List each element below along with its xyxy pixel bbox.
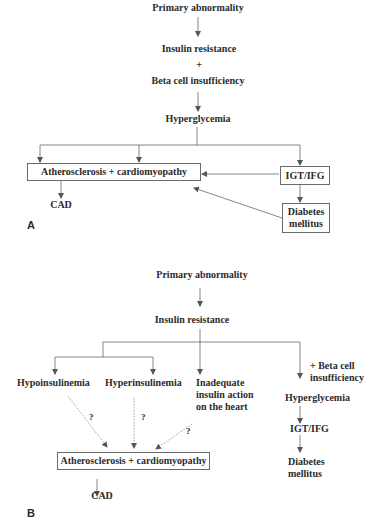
- b-hypoinsulinemia: Hypoinsulinemia: [17, 377, 90, 389]
- a-beta-cell-insufficiency: Beta cell insufficiency: [152, 75, 245, 87]
- b-atherosclerosis-box: Atherosclerosis + cardiomyopathy: [57, 452, 210, 470]
- a-primary-abnormality: Primary abnormality: [152, 2, 243, 14]
- panel-a-label: A: [27, 219, 35, 231]
- b-igt-ifg: IGT/IFG: [290, 423, 329, 435]
- b-question-mark-3: ?: [186, 426, 191, 436]
- a-hyperglycemia: Hyperglycemia: [166, 113, 231, 125]
- a-plus-sign: +: [196, 59, 202, 71]
- b-beta-line1: + Beta cell: [310, 360, 364, 372]
- a-diabetes-line1: Diabetes: [288, 206, 325, 218]
- b-question-mark-1: ?: [89, 412, 94, 422]
- b-hyperglycemia: Hyperglycemia: [285, 392, 350, 404]
- b-beta-line2: insufficiency: [310, 372, 364, 384]
- b-beta-cell-insufficiency: + Beta cell insufficiency: [310, 360, 364, 384]
- panel-b-label: B: [27, 507, 35, 519]
- b-inadequate-insulin-action: Inadequate insulin action on the heart: [196, 377, 254, 413]
- a-diabetes-box: Diabetes mellitus: [282, 203, 330, 233]
- a-cad: CAD: [50, 199, 72, 211]
- b-inadequate-line1: Inadequate: [196, 377, 254, 389]
- a-igt-ifg-box: IGT/IFG: [280, 166, 330, 185]
- b-question-mark-2: ?: [141, 412, 146, 422]
- b-hyperinsulinemia: Hyperinsulinemia: [105, 377, 182, 389]
- a-insulin-resistance: Insulin resistance: [162, 43, 237, 55]
- a-atherosclerosis-box: Atherosclerosis + cardiomyopathy: [27, 163, 201, 181]
- b-diabetes-line2: mellitus: [288, 468, 325, 480]
- b-insulin-resistance: Insulin resistance: [155, 314, 230, 326]
- b-diabetes-mellitus: Diabetes mellitus: [288, 456, 325, 480]
- b-diabetes-line1: Diabetes: [288, 456, 325, 468]
- b-cad: CAD: [91, 490, 113, 502]
- b-inadequate-line2: insulin action: [196, 389, 254, 401]
- a-diabetes-line2: mellitus: [289, 218, 323, 230]
- b-inadequate-line3: on the heart: [196, 401, 254, 413]
- b-primary-abnormality: Primary abnormality: [156, 269, 247, 281]
